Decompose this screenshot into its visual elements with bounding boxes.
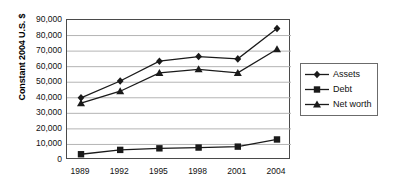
data-point-square [78, 151, 84, 157]
series-line [81, 29, 277, 98]
data-point-triangle [273, 45, 281, 52]
x-tick-label: 1992 [97, 166, 141, 176]
y-tick-label: 20,000 [22, 124, 62, 133]
legend-label: Debt [333, 84, 352, 95]
series-net-worth [77, 45, 281, 106]
data-point-square [235, 143, 241, 149]
legend-marker-square-icon [304, 83, 330, 96]
series-line [81, 49, 277, 103]
data-point-diamond [195, 53, 202, 61]
series-line [81, 139, 277, 154]
y-tick-label: 50,000 [22, 77, 62, 86]
x-tick-label: 1995 [136, 166, 180, 176]
x-tick-label: 2004 [254, 166, 298, 176]
x-tick-label: 1998 [176, 166, 220, 176]
legend-item-debt[interactable]: Debt [304, 82, 372, 97]
data-point-square [117, 147, 123, 153]
data-point-diamond [314, 71, 321, 79]
data-point-diamond [156, 57, 163, 65]
legend-label: Net worth [333, 99, 372, 110]
data-point-square [195, 144, 201, 150]
series-lines [77, 25, 281, 158]
legend-marker-triangle-icon [304, 98, 330, 111]
y-tick-label: 70,000 [22, 46, 62, 55]
data-point-square [314, 86, 320, 92]
y-tick-label: 0 [22, 155, 62, 164]
series-assets [78, 25, 281, 102]
legend-item-assets[interactable]: Assets [304, 67, 372, 82]
series-debt [78, 136, 280, 157]
legend-label: Assets [333, 69, 360, 80]
legend-item-net-worth[interactable]: Net worth [304, 97, 372, 112]
plot-area [66, 19, 290, 159]
data-point-triangle [116, 87, 124, 94]
data-point-square [156, 145, 162, 151]
y-tick-label: 40,000 [22, 93, 62, 102]
y-tick-label: 30,000 [22, 108, 62, 117]
x-axis-tick-labels: 198919921995199820012004 [66, 166, 290, 182]
y-tick-label: 10,000 [22, 139, 62, 148]
y-tick-label: 80,000 [22, 31, 62, 40]
x-tick-label: 1989 [58, 166, 102, 176]
legend-marker-diamond-icon [304, 68, 330, 81]
data-point-square [274, 136, 280, 142]
data-point-diamond [117, 77, 124, 85]
plot-svg [67, 20, 291, 160]
chart-legend: AssetsDebtNet worth [300, 63, 378, 116]
y-tick-label: 60,000 [22, 62, 62, 71]
line-chart: Constant 2004 U.S. $ 90,00080,00070,0006… [0, 0, 406, 196]
x-tick-label: 2001 [215, 166, 259, 176]
y-axis-tick-labels: 90,00080,00070,00060,00050,00040,00030,0… [22, 19, 62, 159]
y-tick-label: 90,000 [22, 15, 62, 24]
